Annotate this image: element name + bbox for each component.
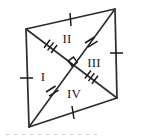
region-label-III: III <box>87 55 101 70</box>
geometry-figure: I II III IV <box>0 0 164 138</box>
region-label-IV: IV <box>67 86 82 101</box>
top-side-tick-icon <box>70 13 71 26</box>
region-label-I: I <box>41 69 46 84</box>
geometry-diagram-svg: I II III IV <box>0 0 164 138</box>
region-label-II: II <box>62 31 71 46</box>
